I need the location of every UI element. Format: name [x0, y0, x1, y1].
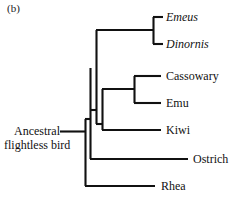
taxon-label-cassowary: Cassowary — [166, 70, 219, 83]
cladogram-branches — [0, 0, 241, 202]
root-label: Ancestral flightless bird — [4, 124, 60, 152]
cladogram-figure: (b) — [0, 0, 241, 202]
taxon-label-rhea: Rhea — [161, 180, 186, 193]
root-label-line-1: Ancestral — [4, 124, 60, 138]
taxon-label-emeus: Emeus — [166, 11, 198, 24]
taxon-label-kiwi: Kiwi — [166, 124, 190, 137]
taxon-label-emu: Emu — [166, 97, 189, 110]
taxon-label-dinornis: Dinornis — [166, 38, 209, 51]
taxon-label-ostrich: Ostrich — [193, 153, 228, 166]
root-label-line-2: flightless bird — [4, 138, 60, 152]
